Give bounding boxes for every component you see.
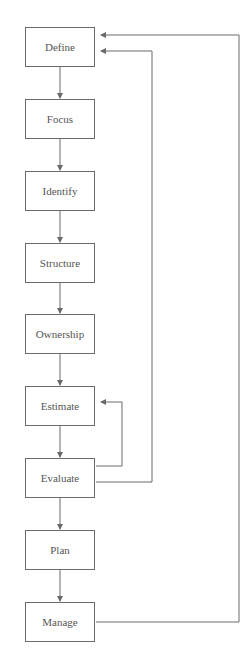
loop-manage-define [96,35,239,622]
step-define: Define [25,27,95,67]
step-identify: Identify [25,171,95,211]
step-manage: Manage [25,602,95,642]
loop-evaluate-define [96,51,152,482]
step-focus: Focus [25,99,95,139]
loop-evaluate-estimate [96,402,122,466]
step-evaluate: Evaluate [25,458,95,498]
step-plan: Plan [25,530,95,570]
step-estimate: Estimate [25,386,95,426]
step-structure: Structure [25,243,95,283]
step-ownership: Ownership [25,314,95,354]
